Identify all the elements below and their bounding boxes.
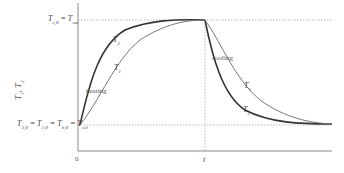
y-label-sub2: 2 xyxy=(20,80,25,83)
curve-label-sub: 1 xyxy=(118,69,121,74)
label-Tsat-sub: sat xyxy=(72,20,78,25)
curve-T1-cooling xyxy=(205,20,332,124)
label-eq-3: = xyxy=(68,119,77,128)
y-label-T1: T xyxy=(13,95,23,100)
time-label: t xyxy=(203,156,205,164)
y-label-sep: , xyxy=(13,88,23,93)
y-label-sub1: 1 xyxy=(20,92,25,95)
label-eq-2: = xyxy=(48,119,57,128)
label-eq: = xyxy=(58,14,67,23)
curve-label-sub: 1 xyxy=(248,87,251,92)
curve-label-sub: 2 xyxy=(117,41,120,46)
curve-T2-heating xyxy=(80,20,205,125)
curve-T2-cooling xyxy=(205,20,332,124)
curve-T1-heating xyxy=(80,20,205,125)
top-level-label: Tc,0 = Tsat xyxy=(48,15,78,25)
y-axis-label: T1, T2 xyxy=(14,80,25,100)
curve-T1-cooling-label: T1 xyxy=(244,82,251,92)
curve-T2-heating-label: T2 xyxy=(113,36,120,46)
label-Tcol-sub: col xyxy=(82,125,88,130)
label-eq-1: = xyxy=(28,119,37,128)
origin-label: 0 xyxy=(75,156,79,163)
curve-T2-cooling-label: T2 xyxy=(243,106,250,116)
heating-annotation: heating xyxy=(86,88,107,95)
curve-label-sub: 2 xyxy=(247,111,250,116)
temperature-diagram xyxy=(0,0,344,173)
y-label-T2: T xyxy=(13,83,23,88)
curve-T1-heating-label: T1 xyxy=(114,64,121,74)
bottom-level-label: T2,0 = T1,0 = Th,0 = Tcol xyxy=(17,120,88,130)
cooling-annotation: cooling xyxy=(212,55,233,62)
